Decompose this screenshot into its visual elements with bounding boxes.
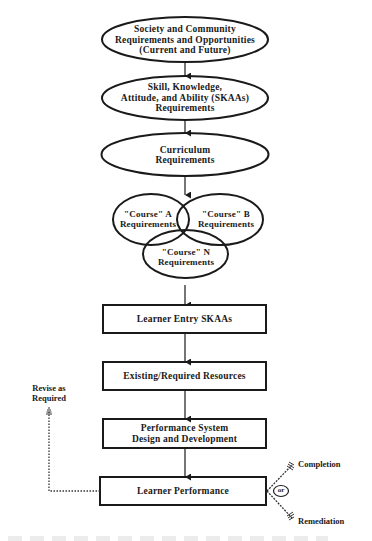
or-label: or [274, 486, 288, 495]
curriculum-label: Curriculum Requirements [104, 136, 266, 174]
skaas-label: Skill, Knowledge, Attitude, and Ability … [104, 78, 266, 118]
course-a-label: "Course" A Requirements [114, 207, 182, 231]
learner-entry-label: Learner Entry SKAAs [104, 306, 265, 332]
society-label: Society and Community Requirements and O… [104, 20, 266, 60]
course-n-label: "Course" N Requirements [150, 245, 222, 269]
cropped-caption [8, 536, 328, 541]
completion-label: Completion [298, 459, 341, 469]
revise-arrowhead-icon [46, 408, 52, 414]
course-b-label: "Course" B Requirements [192, 207, 260, 231]
revise-feedback-line [49, 412, 100, 491]
learner-perf-label: Learner Performance [101, 478, 265, 504]
remediation-label: Remediation [298, 516, 344, 526]
revise-label: Revise as Required [24, 383, 74, 403]
resources-label: Existing/Required Resources [104, 363, 265, 389]
perf-system-label: Performance System Design and Developmen… [104, 420, 265, 447]
